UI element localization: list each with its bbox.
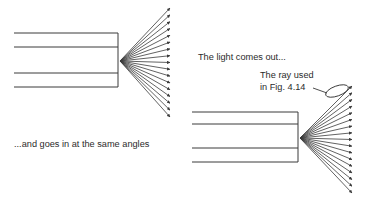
right-ray-14: [300, 138, 352, 180]
right-ray-11: [300, 138, 352, 160]
right-ray-16: [300, 138, 352, 193]
right-diagram: [192, 82, 352, 193]
label-ray-used-line1: The ray used: [260, 70, 314, 80]
left-ray-1: [120, 15, 170, 61]
label-goes-in: ...and goes in at the same angles: [14, 139, 150, 149]
right-ray-1: [300, 93, 352, 138]
left-ray-13: [120, 61, 170, 97]
left-ray-16: [120, 61, 170, 117]
left-ray-11: [120, 61, 170, 83]
left-diagram: [14, 8, 170, 117]
left-ray-4: [120, 35, 170, 61]
ray-callout-ellipse: [324, 82, 350, 100]
label-ray-used-line2: in Fig. 4.14: [260, 82, 305, 92]
right-ray-13: [300, 138, 352, 173]
left-ray-0: [120, 8, 170, 61]
left-ray-14: [120, 61, 170, 103]
light-pipe-figure: ...and goes in at the same angles The li…: [0, 0, 373, 198]
label-comes-out: The light comes out...: [198, 52, 286, 62]
right-ray-4: [300, 113, 352, 138]
ray-callout-leader-line: [313, 88, 327, 93]
